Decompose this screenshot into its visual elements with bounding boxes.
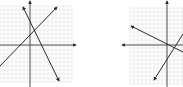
left-coordinate-graph bbox=[0, 1, 76, 87]
grid bbox=[0, 6, 72, 82]
graphs-figure bbox=[0, 0, 183, 87]
increasing-line bbox=[0, 7, 57, 66]
increasing-line bbox=[154, 34, 183, 80]
right-coordinate-graph bbox=[122, 1, 183, 87]
